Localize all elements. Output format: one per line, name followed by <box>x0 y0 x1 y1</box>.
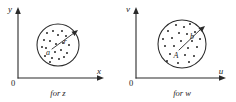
center-label-z: a <box>46 48 50 57</box>
x-axis-label-z: x <box>96 66 101 76</box>
data-dot <box>41 46 43 48</box>
data-dot <box>49 61 51 63</box>
data-dot <box>162 38 164 40</box>
x-axis-arrowhead-z <box>97 75 104 81</box>
panel-z: y x 0 <box>0 0 118 102</box>
data-dot <box>180 40 182 42</box>
u-axis-label-w: u <box>219 66 224 76</box>
v-axis-label-w: v <box>126 4 130 14</box>
radius-label-w: b <box>190 32 194 41</box>
data-dot <box>54 51 56 53</box>
data-dot <box>164 45 166 47</box>
data-dot <box>194 31 196 33</box>
axes-w <box>133 7 226 81</box>
data-dot <box>186 33 188 35</box>
data-dot <box>60 49 62 51</box>
data-dot <box>177 62 179 64</box>
data-dot <box>52 30 54 32</box>
data-dot <box>173 45 175 47</box>
data-dot <box>188 61 190 63</box>
v-axis-arrowhead-w <box>133 7 139 14</box>
data-dot <box>196 46 198 48</box>
caption-w: for w <box>173 88 191 98</box>
data-dot <box>178 32 180 34</box>
data-dot <box>171 37 173 39</box>
caption-z: for z <box>50 88 66 98</box>
origin-label-w: 0 <box>129 78 133 88</box>
dot-cluster-w <box>162 23 201 64</box>
data-dot <box>199 38 201 40</box>
data-dot <box>166 60 168 62</box>
data-dot <box>193 55 195 57</box>
data-dot <box>66 52 68 54</box>
region-circle-w <box>158 20 206 68</box>
y-axis-arrowhead-z <box>15 7 21 14</box>
data-dot <box>169 53 171 55</box>
data-dot <box>183 26 185 28</box>
u-axis-arrowhead-w <box>219 75 226 81</box>
data-dot <box>49 40 51 42</box>
data-dot <box>57 34 59 36</box>
y-axis-label-z: y <box>7 4 12 14</box>
data-dot <box>43 39 45 41</box>
data-dot <box>189 23 191 25</box>
data-dot <box>184 54 186 56</box>
center-label-w: A <box>173 51 179 60</box>
data-dot <box>187 47 189 49</box>
data-dot <box>61 30 63 32</box>
data-dot <box>167 30 169 32</box>
data-dot <box>51 57 53 59</box>
data-dot <box>68 44 70 46</box>
figure-root: y x 0 <box>0 0 236 102</box>
data-dot <box>55 43 57 45</box>
origin-label-z: 0 <box>11 78 15 88</box>
data-dot <box>63 56 65 58</box>
data-dot <box>58 58 60 60</box>
panel-w: v u 0 <box>118 0 236 102</box>
data-dot <box>46 32 48 34</box>
data-dot <box>175 24 177 26</box>
